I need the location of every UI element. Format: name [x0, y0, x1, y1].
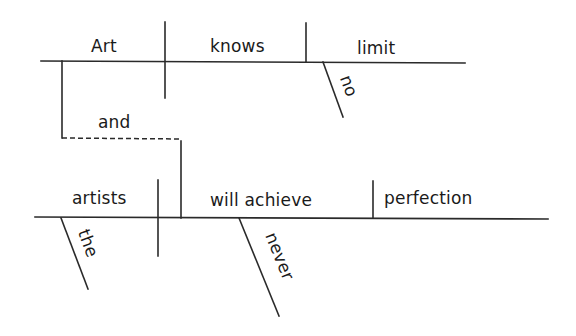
clause1-baseline [41, 61, 465, 63]
conjunction-word: and [98, 114, 131, 131]
clause1-subject: Art [91, 38, 117, 55]
clause2-subject: artists [72, 190, 127, 207]
conjunction-dashed-line [62, 138, 181, 139]
clause2-baseline [35, 217, 548, 219]
clause2-verb: will achieve [210, 192, 312, 209]
clause1-verb: knows [210, 38, 265, 55]
sentence-diagram-lines [0, 0, 576, 336]
clause2-object: perfection [384, 190, 473, 207]
clause1-object: limit [357, 40, 395, 57]
